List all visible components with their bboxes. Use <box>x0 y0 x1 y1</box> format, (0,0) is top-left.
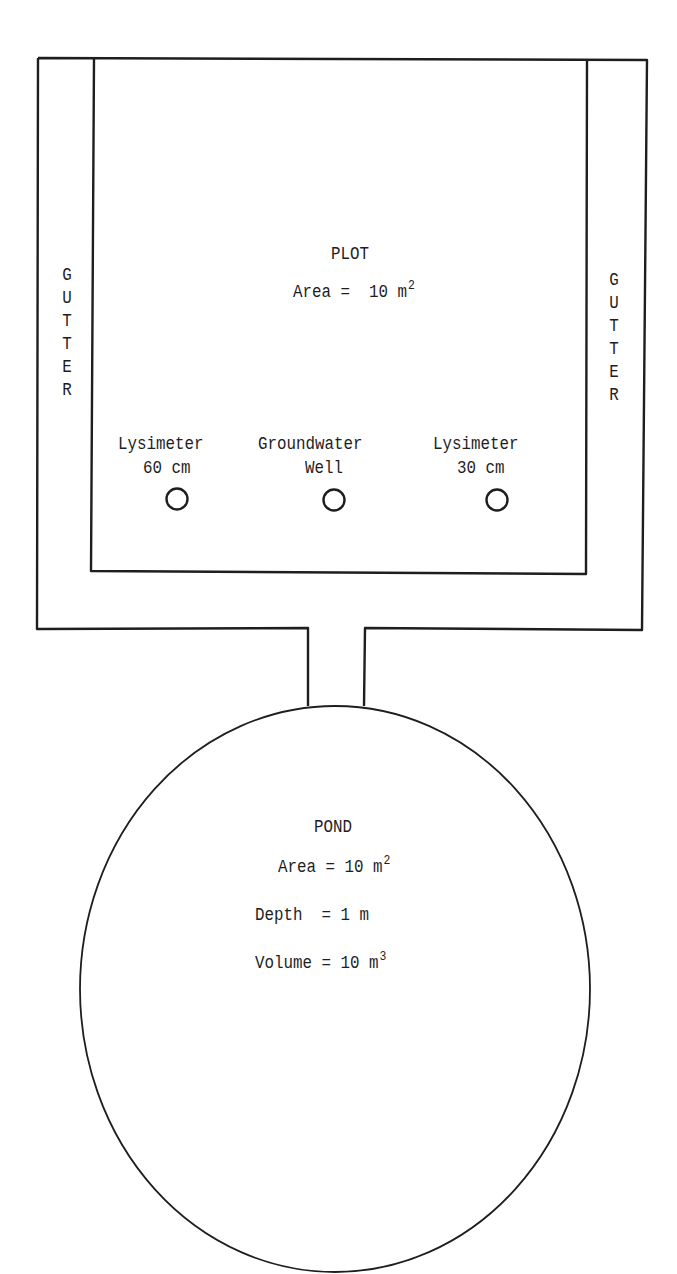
gutter-left-label: G U T T E R <box>58 264 76 402</box>
gutter-letter: G <box>58 264 76 287</box>
groundwater-well-marker <box>324 490 345 511</box>
gutter-letter: R <box>58 379 76 402</box>
groundwater-well-sublabel: Well <box>305 459 343 477</box>
plot-outline <box>91 58 587 574</box>
instrument-subname: Well <box>305 458 343 478</box>
gutter-letter: R <box>605 384 623 407</box>
instrument-name: Groundwater <box>258 434 363 454</box>
pond-depth: Depth = 1 m <box>255 906 369 924</box>
pond-volume-exponent: 3 <box>379 949 386 964</box>
gutter-letter: U <box>605 292 623 315</box>
gutter-outer-outline <box>37 58 647 706</box>
diagram-drawing <box>0 0 677 1274</box>
instrument-name: Lysimeter <box>433 434 519 454</box>
gutter-letter: E <box>58 356 76 379</box>
gutter-letter: T <box>605 338 623 361</box>
instrument-name: Lysimeter <box>118 434 204 454</box>
gutter-right-label: G U T T E R <box>605 269 623 407</box>
gutter-letter: T <box>58 310 76 333</box>
gutter-letter: E <box>605 361 623 384</box>
lysimeter-30cm-depth: 30 cm <box>457 459 505 477</box>
plot-area: Area = 10 m2 <box>293 283 415 301</box>
pond-area: Area = 10 m2 <box>278 858 390 876</box>
gutter-letter: T <box>605 315 623 338</box>
pond-depth-text: Depth = 1 m <box>255 905 369 925</box>
lysimeter-30cm-marker <box>487 490 508 511</box>
gutter-letter: U <box>58 287 76 310</box>
pond-area-text: Area = 10 m <box>278 857 383 877</box>
plot-area-exponent: 2 <box>408 278 415 293</box>
instrument-depth: 60 cm <box>143 458 191 478</box>
pond-volume-text: Volume = 10 m <box>255 953 379 973</box>
gutter-letter: T <box>58 333 76 356</box>
gutter-letter: G <box>605 269 623 292</box>
lysimeter-30cm-label: Lysimeter <box>433 435 519 453</box>
pond-area-exponent: 2 <box>383 853 390 868</box>
plot-area-text: Area = 10 m <box>293 282 407 302</box>
lysimeter-60cm-marker <box>167 489 188 510</box>
groundwater-well-label: Groundwater <box>258 435 363 453</box>
pond-volume: Volume = 10 m3 <box>255 954 386 972</box>
lysimeter-60cm-label: Lysimeter <box>118 435 204 453</box>
lysimeter-60cm-depth: 60 cm <box>143 459 191 477</box>
instrument-depth: 30 cm <box>457 458 505 478</box>
pond-outline <box>80 706 590 1272</box>
pond-title: POND <box>314 818 352 836</box>
plot-title: PLOT <box>331 245 369 263</box>
